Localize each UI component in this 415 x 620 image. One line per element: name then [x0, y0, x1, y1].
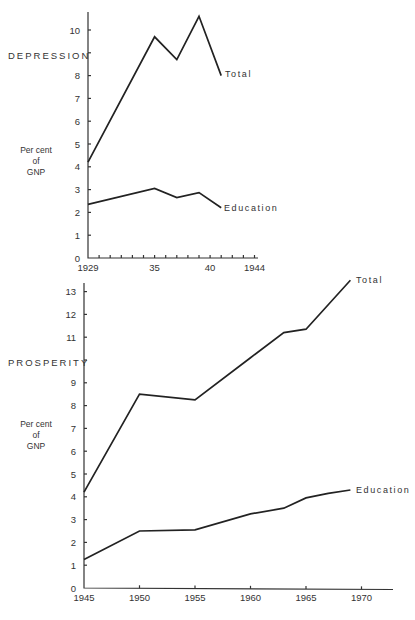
- gnp-spending-chart: DEPRESSION Per cent of GNP 0123456781019…: [0, 0, 415, 620]
- prosperity-series: [84, 280, 350, 559]
- depression-title: DEPRESSION: [8, 50, 90, 61]
- depression-ylabel-line2: of: [32, 156, 40, 166]
- prosperity-y-tick-label: 2: [71, 537, 76, 548]
- prosperity-x-tick-label: 1960: [240, 592, 261, 603]
- depression-education-line: [88, 189, 221, 208]
- prosperity-ylabel-line3: GNP: [27, 441, 46, 451]
- depression-ylabel-line3: GNP: [27, 167, 46, 177]
- prosperity-education-label: Education: [356, 485, 410, 495]
- depression-y-tick-label: 3: [75, 184, 80, 195]
- prosperity-axis-lines: [84, 283, 393, 590]
- depression-y-tick-label: 2: [75, 207, 80, 218]
- prosperity-total-label: Total: [356, 275, 383, 285]
- prosperity-x-tick-label: 1965: [295, 592, 316, 603]
- depression-y-tick-label: 6: [75, 116, 80, 127]
- depression-panel: DEPRESSION Per cent of GNP 0123456781019…: [8, 12, 278, 273]
- depression-y-tick-label: 8: [75, 70, 80, 81]
- prosperity-total-line: [84, 280, 350, 492]
- prosperity-y-tick-label: 5: [71, 469, 76, 480]
- prosperity-y-tick-label: 3: [71, 514, 76, 525]
- prosperity-panel: PROSPERITY Per cent of GNP 0123456789111…: [8, 275, 410, 603]
- depression-y-tick-label: 10: [69, 25, 80, 36]
- depression-y-tick-label: 4: [75, 161, 80, 172]
- prosperity-x-tick-label: 1955: [184, 592, 205, 603]
- prosperity-ylabel-line1: Per cent: [20, 419, 52, 429]
- prosperity-y-tick-label: 12: [65, 309, 76, 320]
- depression-x-tick-label: 1944: [244, 262, 265, 273]
- prosperity-y-tick-label: 4: [71, 491, 76, 502]
- depression-axis-lines: [88, 12, 258, 258]
- prosperity-y-tick-label: 7: [71, 423, 76, 434]
- prosperity-y-tick-label: 9: [71, 377, 76, 388]
- depression-x-tick-label: 40: [205, 262, 216, 273]
- prosperity-x-tick-label: 1945: [73, 592, 94, 603]
- depression-total-label: Total: [225, 69, 252, 79]
- depression-x-tick-label: 35: [149, 262, 160, 273]
- prosperity-x-tick-label: 1950: [129, 592, 150, 603]
- prosperity-y-tick-label: 6: [71, 446, 76, 457]
- depression-education-label: Education: [224, 203, 278, 213]
- prosperity-y-tick-label: 11: [66, 332, 76, 343]
- prosperity-y-tick-label: 1: [71, 560, 76, 571]
- depression-x-tick-label: 1929: [77, 262, 98, 273]
- prosperity-y-tick-label: 8: [71, 400, 76, 411]
- depression-y-tick-label: 5: [75, 139, 80, 150]
- depression-y-tick-label: 1: [75, 230, 80, 241]
- prosperity-x-tick-label: 1970: [351, 592, 372, 603]
- prosperity-ylabel-line2: of: [32, 430, 40, 440]
- depression-total-line: [88, 16, 221, 162]
- prosperity-axes: 0123456789111213194519501955196019651970: [65, 283, 393, 603]
- depression-ylabel-line1: Per cent: [20, 145, 52, 155]
- prosperity-y-tick-label: 13: [65, 286, 76, 297]
- depression-y-tick-label: 7: [75, 93, 80, 104]
- depression-series: [88, 16, 221, 208]
- prosperity-education-line: [84, 490, 350, 560]
- prosperity-title: PROSPERITY: [8, 357, 89, 368]
